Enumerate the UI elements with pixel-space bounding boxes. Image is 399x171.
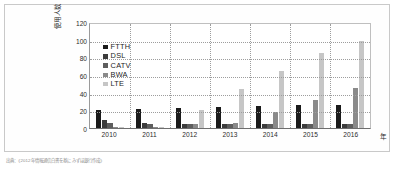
y-tick-label: 120	[76, 20, 87, 27]
legend-item: CATV	[103, 62, 131, 70]
legend-item: BWA	[103, 71, 131, 79]
bar-catv	[147, 124, 152, 128]
bar-bwa	[153, 127, 158, 128]
legend-label: BWA	[111, 71, 128, 79]
bar-bwa	[193, 124, 198, 128]
bar-dsl	[102, 120, 107, 128]
bar-ftth	[176, 108, 181, 128]
y-tick-label: 60	[80, 73, 87, 80]
gridline-horizontal	[90, 59, 370, 60]
document-frame: 使用人数（百万） 120100806040200 201020112012201…	[4, 4, 390, 152]
bar-catv	[187, 124, 192, 128]
legend-swatch-icon	[103, 45, 108, 50]
legend-swatch-icon	[103, 82, 108, 87]
bar-bwa	[313, 100, 318, 128]
bar-lte	[159, 127, 164, 128]
bar-catv	[107, 123, 112, 128]
bar-bwa	[233, 123, 238, 128]
y-tick-label: 0	[83, 126, 87, 133]
bar-ftth	[336, 105, 341, 128]
x-tick-label: 2013	[210, 131, 250, 143]
bar-catv	[227, 124, 232, 128]
bar-lte	[359, 41, 364, 128]
gridline-vertical	[330, 24, 331, 128]
source-caption: 出典：《2012年情報通信白書を基にみずほ銀行作成》	[6, 158, 104, 164]
legend-swatch-icon	[103, 63, 108, 68]
gridline-horizontal	[90, 112, 370, 113]
x-tick-label: 2012	[170, 131, 210, 143]
legend-swatch-icon	[103, 54, 108, 59]
x-tick-label: 2015	[290, 131, 330, 143]
bar-dsl	[302, 124, 307, 128]
y-axis-ticks: 120100806040200	[65, 23, 87, 129]
y-axis-title: 使用人数（百万）	[53, 0, 62, 41]
gridline-horizontal	[90, 42, 370, 43]
x-tick-label: 2016	[331, 131, 371, 143]
legend-label: CATV	[111, 62, 131, 70]
bar-ftth	[256, 106, 261, 128]
gridline-horizontal	[90, 77, 370, 78]
bar-dsl	[342, 124, 347, 128]
legend-label: FTTH	[111, 43, 131, 51]
legend-swatch-icon	[103, 73, 108, 78]
bar-ftth	[216, 107, 221, 128]
bar-catv	[307, 124, 312, 128]
bar-dsl	[262, 124, 267, 128]
bar-dsl	[182, 124, 187, 128]
bar-lte	[119, 127, 124, 128]
x-tick-label: 2010	[89, 131, 129, 143]
x-axis-title: 年	[380, 131, 387, 141]
x-tick-label: 2014	[250, 131, 290, 143]
y-tick-label: 20	[80, 108, 87, 115]
y-tick-label: 100	[76, 37, 87, 44]
gridline-vertical	[290, 24, 291, 128]
plot-area	[89, 23, 371, 129]
x-tick-label: 2011	[129, 131, 169, 143]
legend-label: LTE	[111, 80, 125, 88]
bar-bwa	[273, 112, 278, 128]
bar-catv	[267, 124, 272, 128]
legend-item: LTE	[103, 80, 131, 88]
bar-dsl	[142, 123, 147, 128]
screenshot-root: 使用人数（百万） 120100806040200 201020112012201…	[0, 0, 399, 171]
y-tick-label: 80	[80, 55, 87, 62]
bar-catv	[347, 124, 352, 128]
bar-lte	[279, 71, 284, 128]
gridline-vertical	[250, 24, 251, 128]
bar-dsl	[222, 124, 227, 128]
bar-lte	[319, 53, 324, 128]
legend-item: FTTH	[103, 43, 131, 51]
x-axis-ticks: 2010201120122013201420152016	[89, 131, 371, 143]
y-tick-label: 40	[80, 90, 87, 97]
legend-label: DSL	[111, 52, 126, 60]
gridline-horizontal	[90, 95, 370, 96]
gridline-vertical	[170, 24, 171, 128]
bar-bwa	[113, 127, 118, 128]
gridline-vertical	[210, 24, 211, 128]
chart-legend: FTTHDSLCATVBWALTE	[103, 43, 131, 88]
bar-chart: 使用人数（百万） 120100806040200 201020112012201…	[57, 23, 387, 149]
bar-ftth	[296, 105, 301, 128]
legend-item: DSL	[103, 52, 131, 60]
